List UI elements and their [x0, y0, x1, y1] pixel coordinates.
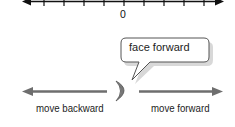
speech-bubble-text: face forward	[129, 41, 190, 53]
left-arrowhead-icon	[22, 0, 31, 6]
move-backward-label: move backward	[36, 102, 104, 114]
right-arrowhead-icon	[215, 0, 224, 6]
backward-arrow	[22, 87, 107, 96]
number-line	[22, 0, 224, 6]
arrow-left-icon	[22, 87, 33, 96]
move-forward-label: move forward	[151, 102, 210, 114]
person-crescent-icon	[116, 81, 124, 101]
forward-arrow	[139, 87, 223, 96]
arrow-right-icon	[212, 87, 223, 96]
zero-label: 0	[120, 8, 126, 20]
